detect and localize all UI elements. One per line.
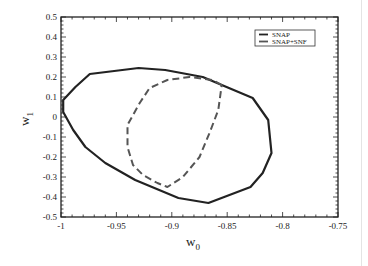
y-axis-label: w1 [17, 112, 35, 126]
y-tick-label: 0.4 [46, 32, 58, 42]
x-tick-label: -0.9 [165, 221, 180, 231]
y-tick-label: 0.2 [46, 72, 57, 82]
series-snap-snf [128, 77, 222, 187]
x-tick-label: -0.85 [218, 221, 237, 231]
x-tick-label: -0.95 [107, 221, 126, 231]
x-axis-label-sub: 0 [195, 242, 200, 252]
x-tick-label: -1 [57, 221, 65, 231]
x-tick-label: -0.75 [329, 221, 348, 231]
legend: SNAP SNAP+SNF [255, 30, 315, 46]
y-tick-label: -0.5 [43, 212, 58, 222]
y-tick-label: -0.3 [43, 172, 58, 182]
y-tick-label: 0.1 [46, 92, 57, 102]
y-tick-label: 0.5 [46, 12, 58, 22]
y-axis-label-sub: 1 [25, 112, 35, 117]
plot-frame [61, 17, 338, 217]
x-tick-label: -0.8 [275, 221, 290, 231]
y-tick-label: 0.3 [46, 52, 58, 62]
y-tick-label: -0.2 [43, 152, 57, 162]
contour-chart: -1-0.95-0.9-0.85-0.8-0.75-0.5-0.4-0.3-0.… [0, 0, 368, 266]
x-axis-label: w0 [186, 234, 200, 252]
y-tick-label: -0.4 [43, 192, 58, 202]
series-layer [63, 68, 271, 203]
series-snap [63, 68, 271, 203]
y-tick-label: -0.1 [43, 132, 57, 142]
legend-label-snap-snf: SNAP+SNF [272, 38, 307, 46]
y-tick-label: 0 [53, 112, 58, 122]
